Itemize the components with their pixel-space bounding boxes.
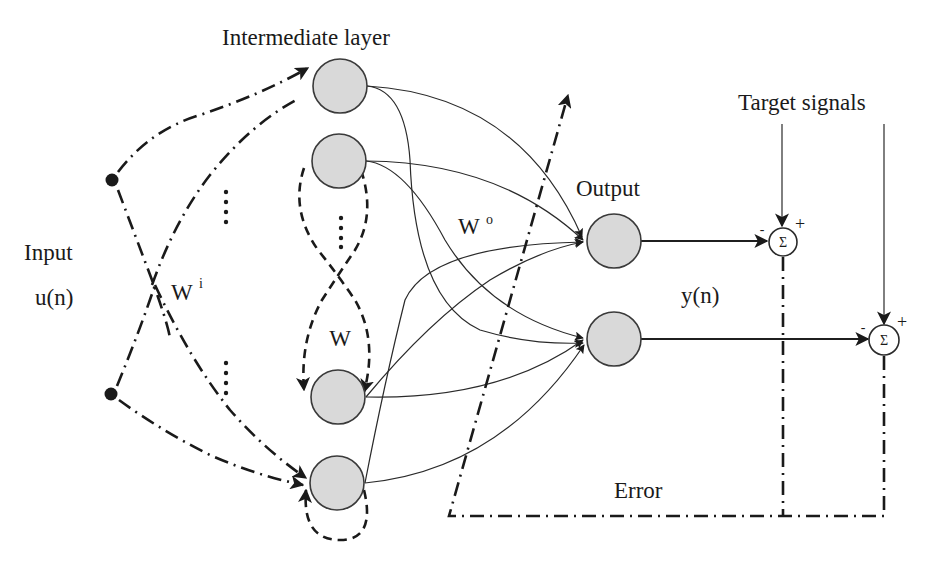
input-weight-label: W i xyxy=(171,276,203,305)
svg-text:+: + xyxy=(795,214,805,234)
error-label: Error xyxy=(614,478,663,503)
error-feedback-path xyxy=(449,95,884,516)
output-label: Output xyxy=(576,176,641,201)
input-node-2 xyxy=(105,388,118,401)
reservoir-neuron-4 xyxy=(310,456,364,510)
output-weight-label: W o xyxy=(458,212,493,239)
svg-text:-: - xyxy=(760,222,765,237)
input-ellipsis-upper xyxy=(224,190,228,224)
svg-text:+: + xyxy=(897,312,907,332)
input-label: Input xyxy=(24,240,73,265)
intermediate-layer-label: Intermediate layer xyxy=(222,25,390,50)
output-neuron-2 xyxy=(587,312,641,366)
sum-symbol-icon: Σ xyxy=(880,333,888,348)
svg-text:W: W xyxy=(458,214,480,239)
output-signal-lines xyxy=(641,241,868,339)
input-ellipsis-lower xyxy=(224,361,228,395)
reservoir-weight-label: W xyxy=(329,326,351,351)
svg-text:o: o xyxy=(486,212,493,227)
sum-symbol-icon: Σ xyxy=(779,235,787,250)
input-weight-connections xyxy=(117,68,308,485)
output-signal-label: y(n) xyxy=(681,283,719,308)
output-neuron-1 xyxy=(587,214,641,268)
reservoir-neuron-2 xyxy=(312,134,366,188)
reservoir-neuron-1 xyxy=(313,59,367,113)
input-node-1 xyxy=(106,174,119,187)
svg-text:-: - xyxy=(861,320,866,335)
target-signals-label: Target signals xyxy=(738,90,866,115)
esn-diagram: Σ - + Σ - + Intermediate layer Input u(n… xyxy=(0,0,929,564)
reservoir-ellipsis xyxy=(339,216,343,249)
output-weight-connections xyxy=(365,86,584,483)
reservoir-neuron-3 xyxy=(311,370,365,424)
svg-text:W: W xyxy=(171,280,193,305)
input-signal-label: u(n) xyxy=(35,285,73,310)
svg-text:i: i xyxy=(199,276,203,291)
